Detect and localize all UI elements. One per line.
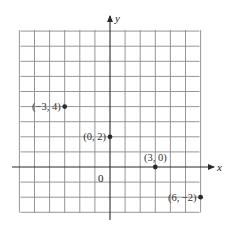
data-point (198, 195, 203, 200)
origin-label: 0 (98, 172, 104, 184)
data-point (153, 165, 158, 170)
point-label: (3, 0) (144, 152, 167, 164)
coordinate-plane: x y 0 (−3, 4)(0, 2)(3, 0)(6, −2) (0, 0, 233, 232)
data-points: (−3, 4)(0, 2)(3, 0)(6, −2) (32, 101, 203, 204)
point-label: (0, 2) (83, 131, 106, 143)
axes: x y 0 (12, 12, 222, 220)
point-label: (6, −2) (168, 192, 197, 204)
x-axis-label: x (216, 161, 222, 173)
data-point (62, 104, 67, 109)
point-label: (−3, 4) (32, 101, 61, 113)
data-point (108, 134, 113, 139)
y-axis-label: y (114, 12, 120, 24)
